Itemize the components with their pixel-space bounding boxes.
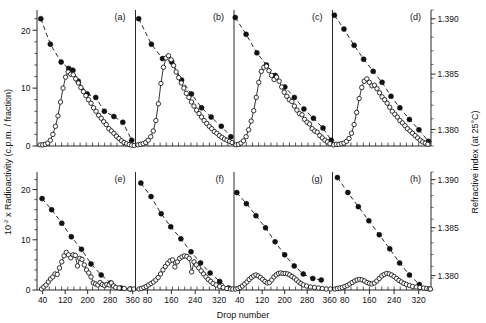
y2-tick-label: 1.390 xyxy=(438,175,460,185)
open-circle-marker xyxy=(375,87,379,91)
filled-circle-marker xyxy=(320,126,325,131)
open-circle-marker xyxy=(73,253,77,257)
open-circle-marker xyxy=(252,109,256,113)
filled-circle-marker xyxy=(59,60,64,65)
open-circle-marker xyxy=(187,95,191,99)
filled-circle-marker xyxy=(59,221,64,226)
filled-circle-marker xyxy=(199,105,204,110)
filled-circle-marker xyxy=(228,134,233,139)
x-tick-label: 240 xyxy=(188,295,202,305)
y2-tick-label: 1.380 xyxy=(438,271,460,281)
open-circle-marker xyxy=(254,95,258,99)
open-circle-marker xyxy=(84,93,88,97)
open-circle-marker xyxy=(257,80,261,84)
panel-label: (b) xyxy=(213,12,224,22)
filled-circle-marker xyxy=(319,277,324,282)
open-circle-marker xyxy=(81,89,85,93)
y2-tick-label: 1.385 xyxy=(438,223,460,233)
open-circle-marker xyxy=(159,81,163,85)
open-circle-marker xyxy=(259,69,263,73)
open-circle-marker xyxy=(151,129,155,133)
open-circle-marker xyxy=(170,258,174,262)
open-circle-marker xyxy=(154,118,158,122)
open-circle-marker xyxy=(352,122,356,126)
open-circle-marker xyxy=(89,101,93,105)
open-circle-marker xyxy=(173,265,177,269)
panel-label: (c) xyxy=(312,12,323,22)
filled-circle-marker xyxy=(371,69,376,74)
x-tick-label: 320 xyxy=(212,295,226,305)
open-circle-marker xyxy=(241,139,245,143)
open-circle-marker xyxy=(189,100,193,104)
open-circle-marker xyxy=(149,135,153,139)
open-circle-marker xyxy=(61,86,65,90)
open-circle-marker xyxy=(177,76,181,80)
open-circle-marker xyxy=(189,270,193,274)
filled-circle-marker xyxy=(89,261,94,266)
filled-circle-marker xyxy=(149,194,154,199)
filled-circle-marker xyxy=(38,16,43,21)
y-axis-label: 10-2 x Radioactivity (c.p.m. / fraction) xyxy=(3,89,13,235)
y2-tick-label: 1.390 xyxy=(438,14,460,24)
panel-label: (h) xyxy=(410,174,421,184)
open-circle-marker xyxy=(279,85,283,89)
filled-circle-marker xyxy=(263,225,268,230)
open-circle-marker xyxy=(357,96,361,100)
y-tick-label: 10 xyxy=(21,235,31,245)
filled-circle-marker xyxy=(301,106,306,111)
filled-circle-marker xyxy=(282,252,287,257)
x-tick-label: 280 xyxy=(300,295,314,305)
open-circle-marker xyxy=(51,132,55,136)
filled-circle-marker xyxy=(345,190,350,195)
x-tick-label: 200 xyxy=(278,295,292,305)
open-circle-marker xyxy=(377,91,381,95)
filled-circle-marker xyxy=(332,13,337,18)
y-tick-label: 10 xyxy=(21,83,31,93)
x-tick-label: 40 xyxy=(38,295,48,305)
filled-circle-marker xyxy=(69,234,74,239)
open-circle-marker xyxy=(246,128,250,132)
open-circle-marker xyxy=(277,79,281,83)
filled-circle-marker xyxy=(416,127,421,132)
open-circle-marker xyxy=(307,122,311,126)
open-circle-marker xyxy=(274,75,278,79)
open-circle-marker xyxy=(156,102,160,106)
filled-circle-marker xyxy=(93,95,98,100)
filled-circle-marker xyxy=(168,224,173,229)
open-circle-marker xyxy=(63,75,67,79)
panel-label: (e) xyxy=(115,174,126,184)
panel-label: (a) xyxy=(115,12,126,22)
x-axis-label: Drop number xyxy=(217,310,270,320)
filled-circle-marker xyxy=(189,249,194,254)
x-tick-label: 280 xyxy=(103,295,117,305)
filled-circle-marker xyxy=(49,207,54,212)
filled-circle-marker xyxy=(129,138,134,143)
filled-circle-marker xyxy=(356,204,361,209)
open-circle-marker xyxy=(347,136,351,140)
multi-panel-figure: 01020(a)(b)(c)1.3801.3851.390(d)40120200… xyxy=(0,0,486,323)
filled-circle-marker xyxy=(387,246,392,251)
open-circle-marker xyxy=(122,286,126,290)
open-circle-marker xyxy=(76,81,80,85)
open-circle-marker xyxy=(426,142,430,146)
filled-circle-marker xyxy=(136,16,141,21)
open-circle-marker xyxy=(74,77,78,81)
filled-circle-marker xyxy=(380,80,385,85)
x-tick-label: 120 xyxy=(255,295,269,305)
filled-circle-marker xyxy=(178,236,183,241)
x-tick-label: 360 xyxy=(323,295,337,305)
filled-circle-marker xyxy=(254,50,259,55)
x-tick-label: 160 xyxy=(164,295,178,305)
filled-circle-marker xyxy=(209,115,214,120)
open-circle-marker xyxy=(300,113,304,117)
filled-circle-marker xyxy=(361,57,366,62)
open-circle-marker xyxy=(360,85,364,89)
open-circle-marker xyxy=(267,69,271,73)
filled-circle-marker xyxy=(120,120,125,125)
open-circle-marker xyxy=(249,119,253,123)
open-circle-marker xyxy=(56,114,60,118)
filled-circle-marker xyxy=(407,117,412,122)
filled-circle-marker xyxy=(341,27,346,32)
panel-label: (g) xyxy=(312,174,323,184)
x-tick-label: 200 xyxy=(81,295,95,305)
